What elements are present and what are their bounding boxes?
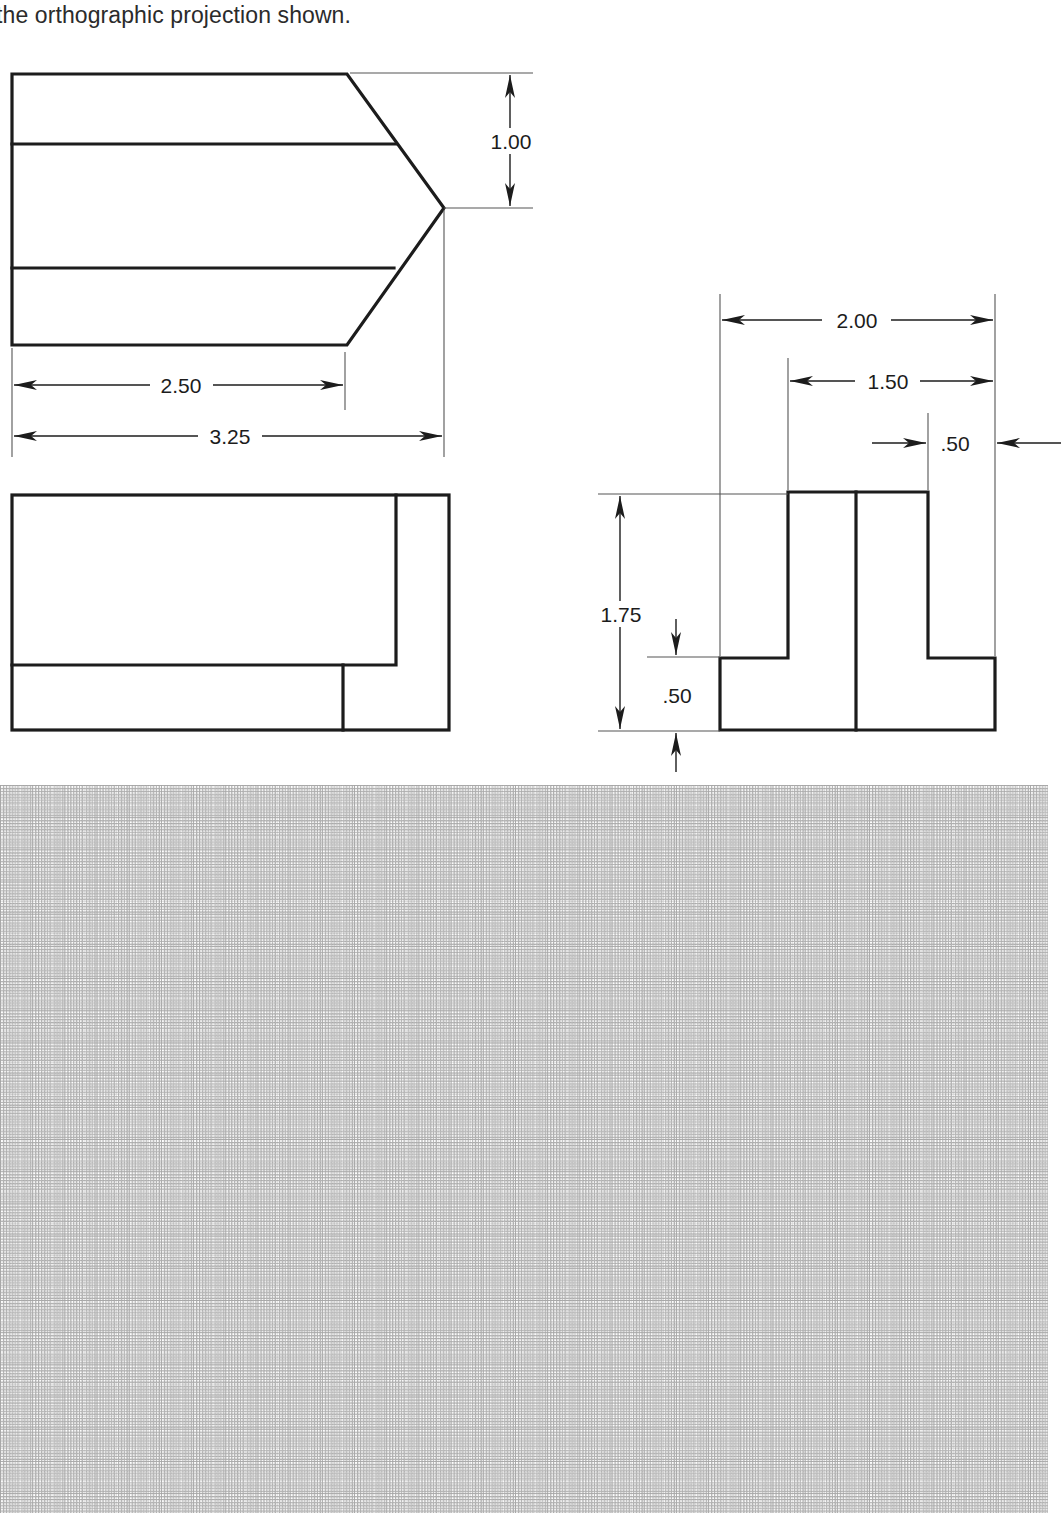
side-view-extension-lines — [598, 294, 995, 731]
dim-text-1-00: 1.00 — [491, 130, 532, 153]
dim-text-3-25: 3.25 — [210, 425, 251, 448]
graph-paper-grid-fine — [0, 785, 1048, 1513]
front-view-outline — [12, 495, 449, 730]
dimension-2-50: 2.50 — [14, 374, 343, 397]
dim-text-base-0-50: .50 — [662, 684, 691, 707]
dim-text-1-75: 1.75 — [601, 603, 642, 626]
dimension-1-75: 1.75 — [592, 496, 650, 729]
dimension-3-25: 3.25 — [14, 425, 442, 448]
drawing-sheet: the orthographic projection shown. — [0, 0, 1061, 1513]
dimension-1-00: 1.00 — [482, 75, 540, 206]
top-view-extension-lines — [12, 73, 533, 457]
top-view-outline — [12, 74, 444, 345]
dimension-1-50: 1.50 — [790, 370, 993, 393]
dim-text-2-00: 2.00 — [837, 309, 878, 332]
front-view — [12, 495, 449, 730]
front-view-step-line — [12, 495, 396, 665]
engineering-drawing: 1.00 2.50 3.25 — [0, 0, 1061, 790]
dimension-2-00: 2.00 — [722, 309, 993, 332]
dim-text-rib-0-50: .50 — [940, 432, 969, 455]
dim-text-1-50: 1.50 — [868, 370, 909, 393]
dim-text-2-50: 2.50 — [161, 374, 202, 397]
dimension-base-0-50: .50 — [662, 619, 691, 772]
top-view — [12, 74, 444, 345]
dimension-rib-0-50: .50 — [872, 432, 1061, 455]
side-view — [720, 492, 995, 730]
